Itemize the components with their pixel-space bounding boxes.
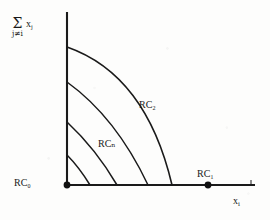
sigma-icon: Σ bbox=[13, 16, 23, 30]
y-axis-variable: xj bbox=[26, 19, 33, 31]
label-rc2-base: RC bbox=[139, 99, 152, 110]
plot-canvas bbox=[0, 0, 270, 220]
x-axis-label: xi bbox=[233, 196, 240, 208]
label-rc0: RC₀ bbox=[14, 178, 31, 188]
label-rc1: RC₁ bbox=[197, 169, 214, 179]
label-rc0-base: RC bbox=[14, 177, 27, 188]
label-rcn-base: RC bbox=[98, 138, 111, 149]
reaction-curve-inner-middle bbox=[67, 122, 117, 185]
reaction-curve-rc-2 bbox=[67, 47, 172, 185]
label-rcn-subscript: ₙ bbox=[111, 138, 115, 149]
y-axis-label: Σ j≠i xj bbox=[12, 16, 33, 38]
label-rc0-subscript: ₀ bbox=[27, 177, 31, 188]
point-rc0-marker bbox=[64, 182, 71, 189]
point-rc1-marker bbox=[205, 182, 212, 189]
y-axis-variable-subscript: j bbox=[31, 23, 33, 30]
summation-group: Σ j≠i bbox=[12, 16, 23, 38]
reaction-curve-figure: Σ j≠i xj xi RC₀ RC₁ RC₂ RCₙ bbox=[0, 0, 270, 220]
label-rc2: RC₂ bbox=[139, 100, 156, 110]
x-axis-variable-subscript: i bbox=[238, 200, 240, 208]
label-rc1-subscript: ₁ bbox=[210, 168, 214, 179]
reaction-curve-innermost bbox=[67, 155, 90, 185]
summation-condition: j≠i bbox=[12, 30, 23, 38]
label-rcn: RCₙ bbox=[98, 139, 116, 149]
label-rc2-subscript: ₂ bbox=[152, 99, 156, 110]
label-rc1-base: RC bbox=[197, 168, 210, 179]
